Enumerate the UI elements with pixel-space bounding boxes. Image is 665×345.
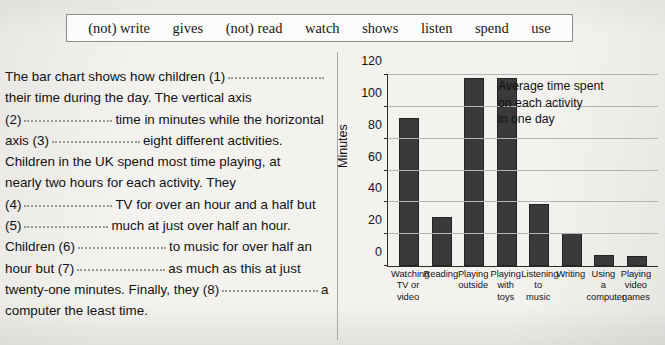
passage-text: Children in the UK spend most time playi… xyxy=(5,154,280,169)
passage-text: Children (6) xyxy=(5,239,75,254)
y-tick-label: 120 xyxy=(361,54,388,68)
passage-line: their time during the day. The vertical … xyxy=(5,87,335,108)
y-tick-label: 40 xyxy=(368,181,388,195)
grid-line xyxy=(388,74,658,75)
passage-text: eight different activities. xyxy=(143,133,283,148)
x-tick-label: Playing with toys xyxy=(489,269,523,303)
passage-line: twenty-one minutes. Finally, they (8)a xyxy=(5,279,335,300)
word-bank-item: spend xyxy=(475,20,509,37)
x-tick-label: Listening to music xyxy=(521,269,555,303)
passage-text: (4) xyxy=(5,197,21,212)
x-axis-labels: Watching TV or videoReadingPlaying outsi… xyxy=(387,269,657,303)
x-tick-label: Using a computer xyxy=(586,269,620,303)
bar-slot xyxy=(459,75,489,266)
passage-line: (5)much at just over half an hour. xyxy=(5,215,335,236)
word-bank-item: shows xyxy=(362,20,398,37)
grid-line xyxy=(388,170,658,171)
word-bank-item: (not) write xyxy=(88,20,150,37)
y-tick-label: 80 xyxy=(368,118,388,132)
x-tick-label: Watching TV or video xyxy=(391,269,425,303)
answer-blank[interactable] xyxy=(78,247,166,249)
annotation-line: on each activity xyxy=(498,95,604,112)
x-tick-label: Writing xyxy=(554,269,588,303)
bar xyxy=(399,118,419,266)
passage-line: The bar chart shows how children (1) xyxy=(5,66,335,87)
passage-line: hour but (7)as much as this at just xyxy=(5,258,335,279)
y-tick-mark xyxy=(384,138,388,139)
passage-text: The bar chart shows how children (1) xyxy=(5,69,225,84)
word-bank-item: use xyxy=(531,20,550,37)
passage-text: axis (3) xyxy=(5,133,49,148)
word-bank-item: (not) read xyxy=(226,20,283,37)
annotation-line: Average time spent xyxy=(498,78,604,95)
x-tick-label: Playing outside xyxy=(456,269,490,303)
bar-slot xyxy=(427,75,457,266)
passage-text: nearly two hours for each activity. They xyxy=(5,175,236,190)
passage-text: much at just over half an hour. xyxy=(111,218,290,233)
bar xyxy=(627,256,647,266)
y-tick-label: 20 xyxy=(368,213,388,227)
answer-blank[interactable] xyxy=(24,205,112,207)
grid-line xyxy=(388,233,658,234)
bar xyxy=(432,217,452,266)
y-tick-mark xyxy=(384,170,388,171)
grid-line xyxy=(388,201,658,202)
passage-text: twenty-one minutes. Finally, they (8) xyxy=(5,282,219,297)
bar xyxy=(529,204,549,266)
y-tick-label: 0 xyxy=(375,245,388,259)
passage-text: their time during the day. The vertical … xyxy=(5,90,252,105)
y-tick-mark xyxy=(384,265,388,266)
annotation-line: in one day xyxy=(498,111,604,128)
y-axis-label: Minutes xyxy=(336,124,350,168)
word-bank-item: listen xyxy=(421,20,452,37)
passage-line: nearly two hours for each activity. They xyxy=(5,172,335,193)
passage-text: to music for over half an xyxy=(169,239,312,254)
passage-text: hour but (7) xyxy=(5,261,74,276)
y-tick-label: 100 xyxy=(361,86,388,100)
x-tick-label: Reading xyxy=(424,269,458,303)
answer-blank[interactable] xyxy=(77,269,165,271)
y-tick-mark xyxy=(384,233,388,234)
bar-slot xyxy=(394,75,424,266)
y-tick-mark xyxy=(384,106,388,107)
passage-line: (2)time in minutes while the horizontal xyxy=(5,109,335,130)
answer-blank[interactable] xyxy=(228,77,324,79)
bar xyxy=(594,255,614,266)
passage-text: as much as this at just xyxy=(168,261,300,276)
y-tick-mark xyxy=(384,74,388,75)
passage-text: TV for over an hour and a half but xyxy=(115,197,315,212)
answer-blank[interactable] xyxy=(222,290,318,292)
word-bank-box: (not) writegives(not) readwatchshowslist… xyxy=(66,14,573,42)
passage-text: (5) xyxy=(5,218,21,233)
bar-chart-panel: Minutes 020406080100120 Watching TV or v… xyxy=(337,52,665,340)
word-bank-item: watch xyxy=(305,20,340,37)
passage-text: a xyxy=(321,282,328,297)
passage-line: computer the least time. xyxy=(5,300,335,321)
passage-text: (2) xyxy=(5,112,21,127)
gap-fill-passage: The bar chart shows how children (1)thei… xyxy=(5,66,335,322)
chart-annotation: Average time spenton each activityin one… xyxy=(498,78,604,128)
passage-line: axis (3)eight different activities. xyxy=(5,130,335,151)
y-tick-mark xyxy=(384,201,388,202)
bar xyxy=(562,233,582,266)
passage-line: Children (6)to music for over half an xyxy=(5,236,335,257)
passage-line: (4)TV for over an hour and a half but xyxy=(5,194,335,215)
answer-blank[interactable] xyxy=(24,226,108,228)
passage-text: time in minutes while the horizontal xyxy=(115,112,323,127)
passage-text: computer the least time. xyxy=(5,303,148,318)
answer-blank[interactable] xyxy=(24,120,112,122)
bar-slot xyxy=(622,75,652,266)
x-tick-label: Playing video games xyxy=(619,269,653,303)
word-bank-item: gives xyxy=(172,20,203,37)
grid-line xyxy=(388,138,658,139)
passage-line: Children in the UK spend most time playi… xyxy=(5,151,335,172)
answer-blank[interactable] xyxy=(52,141,140,143)
y-tick-label: 60 xyxy=(368,150,388,164)
